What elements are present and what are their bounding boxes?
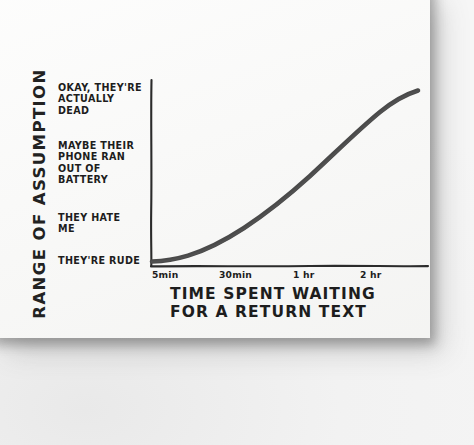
- x-tick-label-30min: 30min: [219, 269, 252, 280]
- x-tick-label-2hr: 2 hr: [360, 269, 381, 280]
- x-tick-label-5min: 5min: [152, 269, 178, 280]
- data-curve-ink-bleed: [152, 91, 418, 262]
- screenshot-stage: RANGE OF ASSUMPTION OKAY, THEY'RE ACTUAL…: [0, 0, 474, 445]
- chart-plot-area: RANGE OF ASSUMPTION OKAY, THEY'RE ACTUAL…: [0, 0, 474, 445]
- x-axis-line: [151, 266, 428, 267]
- y-category-label-hate-me: THEY HATE ME: [58, 212, 120, 235]
- data-curve: [152, 91, 418, 262]
- y-category-label-rude: THEY'RE RUDE: [58, 255, 140, 266]
- x-tick-label-1hr: 1 hr: [293, 269, 314, 280]
- y-category-label-dead: OKAY, THEY'RE ACTUALLY DEAD: [58, 82, 142, 116]
- x-axis-title: TIME SPENT WAITING FOR A RETURN TEXT: [170, 286, 376, 321]
- y-axis-title: RANGE OF ASSUMPTION: [27, 82, 51, 304]
- y-axis-title-text: RANGE OF ASSUMPTION: [30, 68, 49, 318]
- y-category-label-battery: MAYBE THEIR PHONE RAN OUT OF BATTERY: [58, 140, 134, 185]
